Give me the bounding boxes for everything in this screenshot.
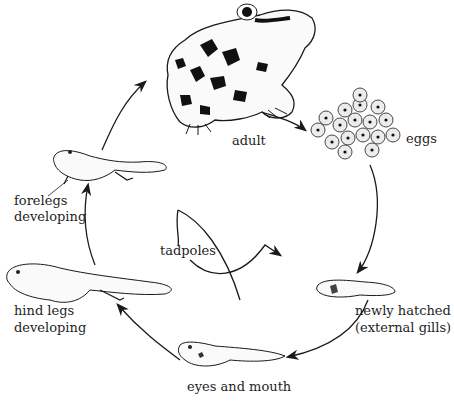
label-tadpoles: tadpoles [160,243,216,259]
label-eyes-and-mouth: eyes and mouth [187,379,291,395]
eyes-mouth-tadpole-illustration [178,342,285,366]
newly-hatched-tadpole-illustration [317,280,395,297]
label-newly-hatched-line2: (external gills) [355,320,451,336]
label-newly-hatched-line1: newly hatched [355,303,451,319]
life-cycle-diagram [0,0,454,403]
eggs-illustration [311,88,400,159]
label-adult: adult [232,133,266,149]
label-eggs: eggs [406,131,437,147]
hind-legs-tadpole-illustration [7,264,172,302]
label-forelegs-line2: developing [14,209,86,225]
forelegs-froglet-illustration [48,150,166,196]
adult-frog-illustration [167,4,315,135]
label-hind-legs-line2: developing [14,320,86,336]
label-hind-legs-line1: hind legs [14,303,74,319]
label-forelegs-line1: forelegs [14,193,67,209]
